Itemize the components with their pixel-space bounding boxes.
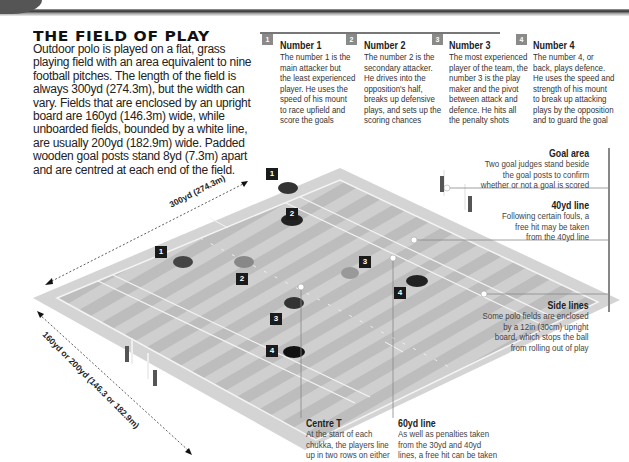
callout-40yd-line: 40yd line Following certain fouls, afree…: [490, 200, 589, 243]
role-badge: 4: [516, 34, 527, 45]
player-marker: 2: [286, 208, 298, 220]
player-marker: 3: [359, 256, 371, 268]
player-marker: 1: [155, 246, 167, 258]
role-badge: 1: [262, 34, 273, 45]
callout-60yd-line: 60yd line As well as penalties takenfrom…: [398, 418, 511, 462]
role-description: The number 2 is thesecondary attacker.He…: [364, 52, 441, 126]
role-title: Number 3: [449, 40, 491, 51]
role-badge: 3: [432, 34, 443, 45]
player-marker: 3: [270, 313, 282, 325]
roles-rule: [260, 32, 500, 34]
callout-centre-t: Centre T At the start of eachchukka, the…: [306, 418, 401, 462]
callout-rule: [608, 148, 610, 312]
role-badge: 2: [346, 34, 357, 45]
player-marker: 2: [236, 273, 248, 285]
role-description: The most experiencedplayer of the team, …: [449, 52, 528, 126]
role-description: The number 4, orback, plays defence.He u…: [533, 52, 614, 126]
callout-side-lines: Side lines Some polo fields are enclosed…: [468, 300, 589, 353]
intro-paragraph: Outdoor polo is played on a flat, grass …: [33, 43, 251, 177]
player-marker: 4: [266, 345, 278, 357]
callout-goal-area: Goal area Two goal judges stand besideth…: [466, 148, 589, 191]
role-title: Number 2: [364, 40, 406, 51]
role-title: Number 1: [280, 40, 322, 51]
role-title: Number 4: [533, 40, 575, 51]
role-description: The number 1 is themain attacker butthe …: [280, 52, 355, 126]
player-marker: 4: [394, 287, 406, 299]
player-marker: 1: [266, 168, 278, 180]
